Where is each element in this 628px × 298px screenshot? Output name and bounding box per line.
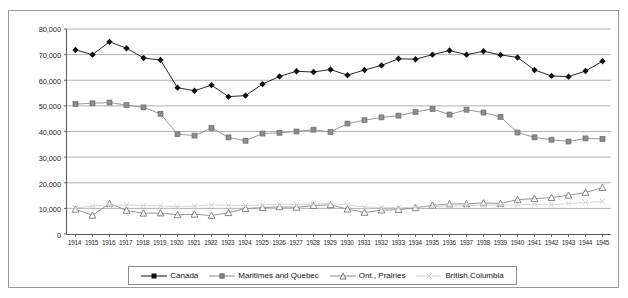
data-point: [310, 69, 316, 75]
data-point: [498, 114, 503, 119]
data-point: [225, 93, 231, 99]
data-point: [429, 51, 435, 57]
y-tick-label: 10,000: [39, 205, 61, 214]
data-point: [531, 67, 537, 73]
data-point: [89, 212, 96, 218]
y-tick-label: 80,000: [39, 25, 61, 34]
data-point: [174, 84, 180, 90]
x-tick-label: 1918: [134, 239, 151, 246]
triangle-marker-icon: [330, 271, 356, 281]
data-point: [480, 48, 486, 54]
data-point: [515, 130, 520, 135]
data-point: [90, 101, 95, 106]
series-layer: [67, 29, 611, 234]
diamond-marker-icon: [141, 271, 167, 281]
y-axis: 80,00070,00060,00050,00040,00030,00020,0…: [9, 29, 61, 235]
data-point: [599, 184, 606, 190]
data-point: [361, 67, 367, 73]
chart-frame: 80,00070,00060,00050,00040,00030,00020,0…: [8, 10, 619, 288]
data-point: [446, 47, 452, 53]
data-point: [430, 106, 435, 111]
x-tick-label: 1928: [304, 239, 321, 246]
data-point: [379, 115, 384, 120]
data-point: [583, 136, 588, 141]
data-point: [276, 73, 282, 79]
x-tick-label: 1940: [509, 239, 526, 246]
x-tick-label: 1933: [390, 239, 407, 246]
data-point: [565, 73, 571, 79]
data-point: [124, 103, 129, 108]
x-tick-label: 1938: [475, 239, 492, 246]
x-tick-label: 1943: [560, 239, 577, 246]
data-point: [191, 88, 197, 94]
data-point: [277, 130, 282, 135]
series-maritimes-and-quebec: [73, 100, 605, 144]
data-point: [72, 206, 79, 212]
data-point: [157, 57, 163, 63]
x-tick-label: 1920: [168, 239, 185, 246]
x-tick-label: 1914: [66, 239, 83, 246]
data-point: [532, 135, 537, 140]
chart-legend: CanadaMaritimes and QuebecOnt., Prairies…: [128, 266, 517, 285]
x-tick-label: 1931: [356, 239, 373, 246]
data-point: [464, 107, 469, 112]
data-point: [107, 100, 112, 105]
data-point: [209, 125, 214, 130]
data-point: [345, 121, 350, 126]
series-british-columbia: [73, 199, 605, 211]
data-point: [327, 66, 333, 72]
x-tick-label: 1942: [543, 239, 560, 246]
data-point: [123, 207, 130, 213]
x-tick-label: 1927: [287, 239, 304, 246]
x-tick-label: 1941: [526, 239, 543, 246]
y-tick-label: 40,000: [39, 128, 61, 137]
data-point: [158, 111, 163, 116]
x-tick-label: 1934: [407, 239, 424, 246]
y-tick-label: 60,000: [39, 76, 61, 85]
x-axis: 1914191519161917191819191920192119221923…: [66, 239, 611, 253]
y-tick-label: 20,000: [39, 179, 61, 188]
data-point: [514, 54, 520, 60]
data-point: [600, 136, 605, 141]
data-point: [243, 138, 248, 143]
data-point: [378, 62, 384, 68]
legend-item-ont-prairies[interactable]: Ont., Prairies: [330, 271, 406, 281]
data-point: [447, 112, 452, 117]
y-tick-label: 70,000: [39, 50, 61, 59]
data-point: [192, 133, 197, 138]
x-tick-label: 1925: [253, 239, 270, 246]
x-tick-label: 1916: [100, 239, 117, 246]
legend-label: British Columbia: [445, 271, 503, 280]
data-point: [362, 118, 367, 123]
data-point: [497, 52, 503, 58]
data-point: [73, 102, 78, 107]
data-point: [72, 47, 78, 53]
data-point: [582, 68, 588, 74]
x-tick-label: 1937: [458, 239, 475, 246]
data-point: [311, 127, 316, 132]
series-ont-prairies: [72, 184, 606, 218]
data-point: [328, 130, 333, 135]
y-tick-label: 50,000: [39, 102, 61, 111]
x-tick-label: 1923: [219, 239, 236, 246]
y-tick-label: 30,000: [39, 153, 61, 162]
square-marker-icon: [209, 271, 235, 281]
legend-label: Canada: [170, 271, 198, 280]
x-tick-label: 1929: [321, 239, 338, 246]
legend-item-canada[interactable]: Canada: [141, 271, 198, 281]
legend-item-maritimes-and-quebec[interactable]: Maritimes and Quebec: [209, 271, 318, 281]
data-point: [260, 131, 265, 136]
x-tick-label: 1932: [373, 239, 390, 246]
data-point: [549, 137, 554, 142]
data-point: [395, 56, 401, 62]
x-tick-label: 1930: [339, 239, 356, 246]
data-point: [599, 58, 605, 64]
x-tick-label: 1939: [492, 239, 509, 246]
legend-item-british-columbia[interactable]: British Columbia: [416, 271, 503, 281]
x-tick-label: 1915: [83, 239, 100, 246]
data-point: [481, 110, 486, 115]
x-tick-label: 1935: [424, 239, 441, 246]
x-tick-label: 1936: [441, 239, 458, 246]
legend-label: Ont., Prairies: [359, 271, 406, 280]
data-point: [344, 72, 350, 78]
